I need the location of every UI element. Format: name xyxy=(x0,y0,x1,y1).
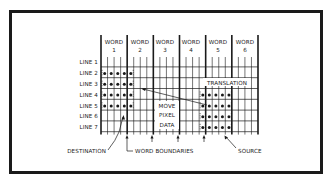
source-pixel-dot xyxy=(208,104,211,107)
word-2-label: WORD xyxy=(131,39,150,45)
destination-pixel-dot xyxy=(123,104,126,107)
word-6-label: WORD xyxy=(236,39,255,45)
destination-label: DESTINATION xyxy=(67,148,106,154)
word-2-num: 2 xyxy=(138,47,142,53)
data-label: DATA xyxy=(160,122,175,128)
source-pixel-dot xyxy=(208,126,211,129)
destination-pixel-dot xyxy=(123,72,126,75)
destination-pixel-dot xyxy=(116,72,119,75)
source-pixel-dot xyxy=(201,104,204,107)
word-1-label: WORD xyxy=(105,39,124,45)
destination-pixel-dot xyxy=(129,72,132,75)
boundary-arrowhead-4-icon xyxy=(203,135,206,139)
source-pixel-dot xyxy=(221,94,224,97)
word-3-num: 3 xyxy=(163,47,167,53)
destination-pixel-dot xyxy=(110,94,113,97)
destination-pixel-dot xyxy=(116,94,119,97)
source-pixel-dot xyxy=(214,126,217,129)
move-arrowhead-icon xyxy=(141,88,146,91)
source-pixel-dot xyxy=(227,126,230,129)
destination-pixel-dot xyxy=(103,104,106,107)
source-pixel-dot xyxy=(227,94,230,97)
boundary-arrowhead-3-icon xyxy=(177,135,180,139)
word-boundaries-leader xyxy=(127,142,133,151)
source-label: SOURCE xyxy=(238,148,262,154)
line-5-label: LINE 5 xyxy=(80,103,99,109)
destination-pixel-dot xyxy=(116,83,119,86)
boundary-arrowhead-1-icon xyxy=(126,135,129,139)
destination-arrowhead-icon xyxy=(122,115,126,120)
line-1-label: LINE 1 xyxy=(80,59,99,65)
line-7-label: LINE 7 xyxy=(80,124,99,130)
boundary-arrowhead-2-icon xyxy=(151,135,154,139)
word-4-label: WORD xyxy=(182,39,201,45)
source-pixel-dot xyxy=(227,115,230,118)
destination-pixel-dot xyxy=(129,94,132,97)
destination-pixel-dot xyxy=(123,83,126,86)
word-5-num: 5 xyxy=(216,47,220,53)
source-pixel-dot xyxy=(227,104,230,107)
line-6-label: LINE 6 xyxy=(80,113,99,119)
pixel-label: PIXEL xyxy=(159,112,176,118)
move-label: MOVE xyxy=(159,103,176,109)
word-6-num: 6 xyxy=(243,47,247,53)
word-boundaries-label: WORD BOUNDARIES xyxy=(135,148,194,154)
word-3-label: WORD xyxy=(156,39,175,45)
line-2-label: LINE 2 xyxy=(80,70,98,76)
source-pixel-dot xyxy=(214,94,217,97)
destination-pixel-dot xyxy=(103,72,106,75)
word-1-num: 1 xyxy=(112,47,116,53)
destination-pixel-dot xyxy=(110,72,113,75)
source-pixel-dot xyxy=(214,115,217,118)
word-5-label: WORD xyxy=(209,39,228,45)
source-leader xyxy=(226,137,236,148)
destination-pixel-dot xyxy=(129,104,132,107)
line-4-label: LINE 4 xyxy=(80,92,99,98)
destination-pixel-dot xyxy=(110,104,113,107)
destination-pixel-dot xyxy=(103,83,106,86)
line-3-label: LINE 3 xyxy=(80,81,99,87)
source-pixel-dot xyxy=(221,104,224,107)
word-4-num: 4 xyxy=(189,47,193,53)
destination-pixel-dot xyxy=(129,83,132,86)
destination-pixel-dot xyxy=(116,104,119,107)
source-pixel-dot xyxy=(221,115,224,118)
bitblt-diagram: WORD 1 WORD 2 WORD 3 WORD 4 WORD 5 WORD … xyxy=(0,0,330,185)
source-pixel-dot xyxy=(208,94,211,97)
source-pixel-dot xyxy=(214,104,217,107)
source-pixel-dot xyxy=(201,94,204,97)
translation-label: TRANSLATION xyxy=(206,80,247,86)
source-pixel-dot xyxy=(221,126,224,129)
source-pixel-dot xyxy=(201,126,204,129)
line-labels: LINE 1 LINE 2 LINE 3 LINE 4 LINE 5 LINE … xyxy=(80,59,99,130)
source-pixel-dot xyxy=(201,115,204,118)
destination-pixel-dot xyxy=(123,94,126,97)
source-pixel-dot xyxy=(208,115,211,118)
destination-pixel-dot xyxy=(110,83,113,86)
destination-pixel-dot xyxy=(103,94,106,97)
